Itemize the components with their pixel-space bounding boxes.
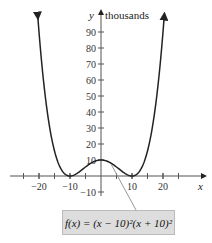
y-unit-label: thousands	[105, 9, 149, 21]
y-tick-label: −10	[80, 187, 96, 198]
y-tick-label: 50	[86, 91, 96, 102]
y-tick-label: 90	[86, 27, 96, 38]
y-axis-label: y	[88, 9, 94, 21]
y-tick-label: 70	[86, 59, 96, 70]
y-ticks: 908070605040302010−10	[80, 27, 104, 198]
y-tick-label: 80	[86, 43, 96, 54]
x-tick-label: 20	[158, 181, 168, 192]
x-tick-label: −10	[62, 181, 78, 192]
y-tick-label: 60	[86, 75, 96, 86]
chart-canvas: −20−101020 908070605040302010−10 y thous…	[0, 0, 212, 243]
y-tick-label: 20	[86, 139, 96, 150]
formula-annotation: f(x) = (x − 10)²(x + 10)²	[62, 210, 175, 235]
x-axis-label: x	[197, 180, 203, 192]
x-tick-label: −20	[31, 181, 47, 192]
x-tick-label: 10	[127, 181, 137, 192]
y-tick-label: 40	[86, 107, 96, 118]
y-tick-label: 30	[86, 123, 96, 134]
